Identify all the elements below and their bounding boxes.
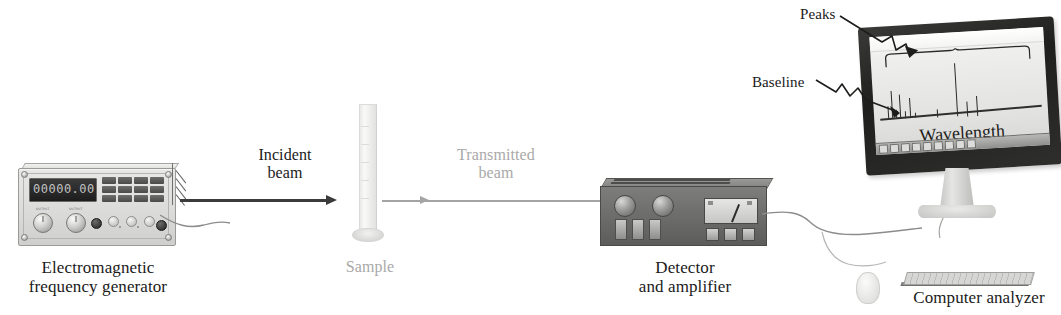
taskbar-icon[interactable] [956,140,966,150]
generator-screw [21,171,28,178]
generator-button-grid[interactable] [102,177,164,202]
generator-knob-large[interactable] [33,213,53,233]
generator-display-value: 00000.00 [33,182,95,196]
detector-meter-mark [747,201,752,205]
baseline-leader-line [814,78,924,124]
sample-tube-base [352,228,384,242]
baseline-callout-label: Baseline [752,74,804,91]
incident-beam-arrowhead [326,195,337,205]
generator-button[interactable] [102,195,116,202]
sample-graduation [361,180,369,181]
generator-indicator-dot [119,226,121,228]
generator-button[interactable] [150,195,164,202]
transmitted-beam-label: Transmitted beam [432,146,560,182]
spectrum-peak [966,102,968,117]
detector-meter-needle [731,204,740,222]
generator-screw [21,234,28,241]
taskbar-icon[interactable] [879,144,889,154]
generator-antenna [172,163,173,205]
detector-vent [613,179,730,181]
taskbar-icon[interactable] [912,142,922,152]
keyboard-keys[interactable] [903,272,1035,285]
detector-small-button[interactable] [742,228,755,241]
sample-graduation [361,144,369,145]
generator-button[interactable] [102,177,116,184]
generator-cable [160,205,230,235]
sample-graduation [361,198,369,199]
sample-tube-glass [359,104,377,231]
generator-button[interactable] [102,186,116,193]
monitor-base [918,205,996,218]
transmitted-beam-arrowhead [420,196,429,204]
generator-button[interactable] [118,195,132,202]
generator-knob-small[interactable] [144,216,155,227]
taskbar-icon[interactable] [967,139,977,149]
generator-button[interactable] [134,195,148,202]
generator-knob-small[interactable] [108,216,119,227]
generator-knob-large[interactable] [66,213,86,233]
computer-analyzer-label: Computer analyzer [898,288,1060,307]
generator-knob-small[interactable] [126,216,137,227]
electromagnetic-frequency-generator: 00000.00 OUTPUT OUTPUT [18,168,174,244]
detector-analog-meter [704,198,758,224]
generator-button[interactable] [134,186,148,193]
taskbar-icon[interactable] [890,144,900,154]
generator-knob-caption-left: OUTPUT [36,207,49,211]
sample-tube [352,104,382,252]
monitor-neck [940,168,974,208]
taskbar-icon[interactable] [901,143,911,153]
spectrum-peak [976,96,979,116]
generator-indicator-dot [137,226,139,228]
detector-slider[interactable] [615,219,627,240]
detector-small-button[interactable] [706,228,719,241]
peaks-callout-label: Peaks [800,6,836,23]
transmitted-beam-line [382,200,608,202]
detector-knob[interactable] [614,195,636,217]
peaks-leader-line [836,12,946,72]
detector-knob[interactable] [652,195,674,217]
sample-label: Sample [330,258,410,276]
generator-knob-caption-right: OUTPUT [69,207,82,211]
incident-beam-label: Incident beam [230,146,340,182]
generator-screw [165,171,172,178]
generator-lcd-display: 00000.00 [29,178,97,202]
detector-meter-mark [708,201,713,205]
taskbar-icon[interactable] [945,140,955,150]
detector-small-button[interactable] [724,228,737,241]
detector-vent [610,182,730,184]
mouse[interactable] [856,272,880,304]
taskbar-icon[interactable] [923,142,933,152]
generator-button[interactable] [134,177,148,184]
generator-knob-dark[interactable] [91,218,102,229]
taskbar-icon[interactable] [934,141,944,151]
detector-label: Detector and amplifier [612,258,758,296]
detector-slider[interactable] [649,219,661,240]
detector-and-amplifier [600,178,765,248]
sample-graduation [361,126,369,127]
generator-label: Electromagnetic frequency generator [8,258,188,296]
generator-button[interactable] [118,177,132,184]
generator-button[interactable] [150,186,164,193]
incident-beam-line [180,199,332,202]
detector-slider[interactable] [632,219,644,240]
generator-screw [165,234,172,241]
detector-to-computer-cable [762,206,922,286]
generator-button[interactable] [118,186,132,193]
generator-button[interactable] [150,177,164,184]
sample-graduation [361,162,369,163]
spectrum-peak [954,64,959,117]
figure-canvas: 00000.00 OUTPUT OUTPUT [0,0,1061,315]
keyboard[interactable] [905,272,1031,288]
